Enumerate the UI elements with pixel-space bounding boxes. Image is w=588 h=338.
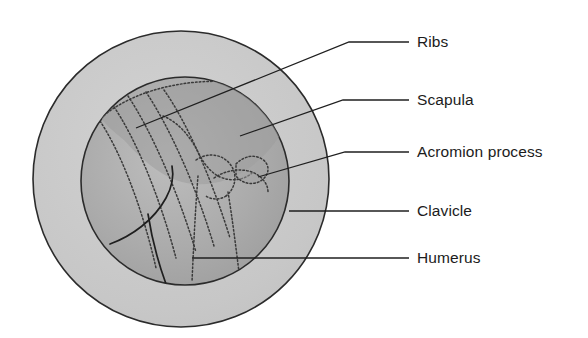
figure-root: RibsScapulaAcromion processClavicleHumer…: [0, 0, 588, 338]
label-acromion-process: Acromion process: [417, 143, 543, 160]
label-clavicle: Clavicle: [417, 202, 472, 219]
label-texts-group: RibsScapulaAcromion processClavicleHumer…: [417, 33, 543, 266]
anatomy-diagram: RibsScapulaAcromion processClavicleHumer…: [0, 0, 588, 338]
label-dashes-group: [381, 42, 409, 258]
label-humerus: Humerus: [417, 249, 481, 266]
label-ribs: Ribs: [417, 33, 449, 50]
label-scapula: Scapula: [417, 91, 474, 108]
